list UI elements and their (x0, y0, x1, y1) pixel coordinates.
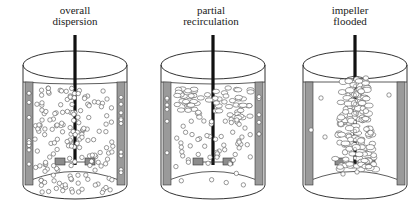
gas-bubble (61, 188, 65, 192)
gas-bubble (319, 96, 323, 100)
gas-bubble (346, 88, 354, 93)
gas-bubble (86, 138, 90, 142)
gas-bubble (190, 132, 194, 136)
gas-bubble (78, 108, 82, 112)
gas-bubble (209, 120, 213, 124)
gas-bubble (180, 154, 184, 158)
gas-bubble (27, 162, 31, 166)
gas-bubble (323, 135, 327, 139)
gas-bubble (257, 132, 261, 136)
gas-bubble (246, 103, 252, 107)
gas-bubble (354, 156, 357, 160)
gas-bubble (119, 122, 123, 126)
gas-bubble (51, 152, 55, 156)
gas-bubble (235, 118, 239, 122)
gas-bubble (71, 118, 75, 122)
gas-bubble (215, 109, 223, 113)
gas-bubble (42, 132, 46, 136)
gas-bubble (75, 141, 79, 145)
gas-bubble (225, 104, 232, 108)
gas-bubble (40, 190, 44, 194)
gas-bubble (174, 93, 181, 97)
gas-bubble (69, 86, 73, 90)
gas-bubble (110, 150, 114, 154)
gas-bubble (105, 97, 109, 101)
gas-bubble (229, 98, 235, 102)
gas-bubble (187, 103, 195, 107)
gas-bubble (174, 102, 180, 106)
gas-bubble (70, 102, 74, 106)
gas-bubble (63, 183, 67, 187)
gas-bubble (332, 156, 339, 161)
gas-bubble (40, 118, 44, 122)
gas-bubble (119, 118, 123, 122)
gas-bubble (96, 100, 100, 104)
gas-bubble (234, 88, 242, 92)
gas-bubble (354, 129, 357, 133)
gas-bubble (104, 122, 108, 126)
gas-bubble (84, 173, 88, 177)
gas-bubble (88, 163, 92, 167)
gas-bubble (37, 123, 41, 127)
tank-bottom (161, 185, 265, 199)
gas-bubble (39, 88, 43, 92)
gas-bubble (110, 140, 114, 144)
gas-bubble (60, 130, 64, 134)
gas-bubble (174, 164, 178, 168)
gas-bubble (59, 121, 63, 125)
gas-bubble (97, 129, 101, 133)
gas-bubble (72, 112, 76, 116)
gas-bubble (119, 111, 123, 115)
gas-bubble (203, 144, 207, 148)
gas-bubble (93, 183, 97, 187)
gas-bubble (93, 168, 97, 172)
gas-bubble (104, 185, 108, 189)
gas-bubble (196, 110, 202, 114)
gas-bubble (77, 145, 81, 149)
gas-bubble (354, 147, 357, 151)
gas-bubble (76, 181, 80, 185)
gas-bubble (241, 183, 245, 187)
gas-bubble (76, 173, 80, 177)
gas-bubble (35, 149, 39, 153)
gas-bubble (197, 96, 204, 100)
gas-bubble (237, 122, 241, 126)
gas-bubble (82, 126, 86, 130)
gas-bubble (119, 154, 123, 158)
gas-bubble (46, 86, 50, 90)
gas-bubble (219, 134, 223, 138)
baffle-right (397, 82, 405, 185)
gas-bubble (68, 95, 72, 99)
baffle-left (305, 82, 313, 185)
gas-bubble (202, 119, 206, 123)
baffle-left (25, 82, 33, 185)
gas-bubble (99, 105, 103, 109)
gas-bubble (357, 138, 364, 144)
gas-bubble (213, 101, 219, 105)
gas-bubble (209, 178, 213, 182)
gas-bubble (186, 160, 190, 164)
impeller-blade-left (55, 158, 65, 165)
gas-bubble (196, 137, 200, 141)
gas-bubble (87, 115, 91, 119)
gas-bubble (69, 163, 73, 167)
gas-bubble (43, 169, 47, 173)
gas-bubble (205, 98, 213, 102)
gas-bubble (247, 114, 253, 118)
gas-bubble (59, 89, 63, 93)
gas-bubble (73, 160, 77, 164)
gas-bubble (237, 146, 241, 150)
gas-bubble (175, 136, 179, 140)
gas-bubble (91, 137, 95, 141)
tank-diagram (277, 0, 417, 203)
panel-overall-dispersion: overall dispersion (0, 0, 140, 203)
gas-bubble (101, 89, 105, 93)
gas-bubble (213, 89, 220, 93)
gas-bubble (40, 108, 44, 112)
gas-bubble (111, 144, 115, 148)
gas-bubble (60, 110, 64, 114)
gas-bubble (228, 162, 232, 166)
gas-bubble (229, 120, 233, 124)
gas-bubble (337, 100, 345, 105)
gas-bubble (222, 143, 226, 147)
